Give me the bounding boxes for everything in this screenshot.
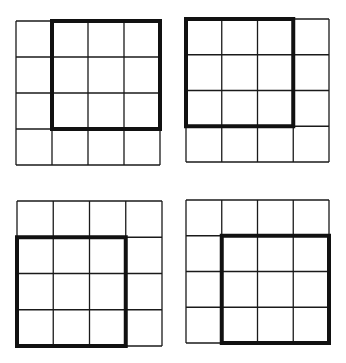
- highlight-square: [52, 21, 160, 129]
- grid-bottom-right: [186, 200, 329, 343]
- grid-top-right: [186, 19, 329, 162]
- grid-top-left: [16, 21, 160, 165]
- highlight-square: [17, 237, 126, 346]
- highlight-square: [186, 19, 293, 126]
- grid-bottom-left: [17, 201, 162, 346]
- highlight-square: [222, 236, 329, 343]
